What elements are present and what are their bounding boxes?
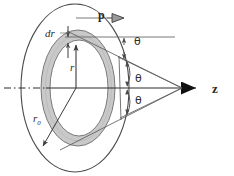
label-theta-bottom: θ [135,95,142,106]
figure-annular-aperture-diagram: dr r r0 p z θ θ θ [0,0,234,176]
diagram-canvas [0,0,234,176]
label-r: r [70,62,74,73]
label-theta-top: θ [134,36,141,47]
label-z-axis: z [212,82,218,95]
label-r0: r0 [33,113,41,127]
label-r0-subscript: 0 [37,119,40,126]
label-theta-mid: θ [135,73,142,84]
label-p: p [98,9,105,21]
label-dr: dr [45,28,55,39]
p-arrow-icon [107,14,124,23]
